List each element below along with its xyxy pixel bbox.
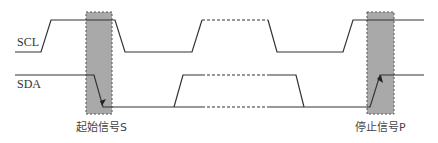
i2c-timing-diagram: SCL SDA 起始信号S 停止信号P [0,0,438,143]
stop-condition-box [367,12,394,114]
start-condition-label: 起始信号S [76,120,127,134]
sda-label: SDA [17,77,41,91]
stop-condition-label: 停止信号P [355,120,406,134]
sda-waveform [15,75,424,107]
scl-waveform [15,20,424,52]
start-condition-box [86,12,112,114]
scl-label: SCL [17,35,39,49]
